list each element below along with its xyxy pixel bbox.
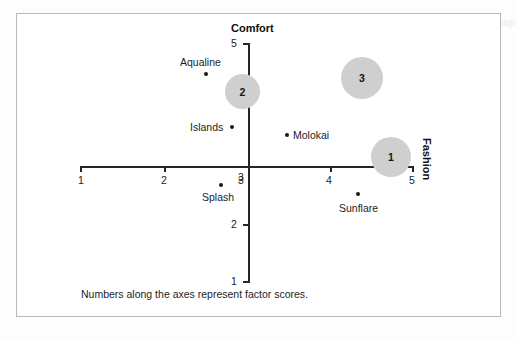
fashion-tick-5-label: 5 xyxy=(409,175,415,186)
fashion-tick-5-mark xyxy=(412,166,414,172)
figure-caption: Numbers along the axes represent factor … xyxy=(81,289,308,300)
comfort-tick-5-mark xyxy=(243,43,249,45)
segment-bubble-1: 1 xyxy=(371,137,411,177)
fashion-axis-line xyxy=(80,166,413,168)
brand-label-molokai: Molokai xyxy=(293,130,329,141)
figure-container: FIGURE 3.5 Brand Perceptual Map Comfort … xyxy=(0,0,517,340)
brand-label-sunflare: Sunflare xyxy=(339,203,378,214)
brand-point-splash xyxy=(219,183,223,187)
brand-point-aqualine xyxy=(204,72,208,76)
brand-label-islands: Islands xyxy=(190,122,223,133)
fashion-tick-2-label: 2 xyxy=(161,175,167,186)
fashion-tick-4-label: 4 xyxy=(326,175,332,186)
brand-label-splash: Splash xyxy=(202,192,234,203)
brand-label-aqualine: Aqualine xyxy=(180,57,221,68)
fashion-tick-2-mark xyxy=(164,166,166,172)
comfort-axis-title: Comfort xyxy=(231,23,274,34)
fashion-tick-4-mark xyxy=(330,166,332,172)
segment-bubble-3: 3 xyxy=(341,57,383,99)
fashion-tick-3-label: 3 xyxy=(238,175,244,186)
fashion-tick-1-mark xyxy=(80,166,82,172)
comfort-tick-1-mark xyxy=(243,281,249,283)
comfort-tick-2-label: 2 xyxy=(231,219,237,230)
segment-bubble-2: 2 xyxy=(225,74,260,109)
comfort-tick-5-label: 5 xyxy=(231,38,237,49)
segment-bubble-1-label: 1 xyxy=(388,151,394,163)
segment-bubble-3-label: 3 xyxy=(359,72,365,84)
comfort-tick-2-mark xyxy=(243,224,249,226)
segment-bubble-2-label: 2 xyxy=(240,86,246,98)
brand-point-molokai xyxy=(285,133,289,137)
perceptual-map-plot: Comfort Fashion 5 3 2 1 1 2 3 4 5 1 2 3 xyxy=(0,0,517,340)
brand-point-islands xyxy=(230,125,234,129)
fashion-axis-title: Fashion xyxy=(421,138,432,180)
brand-point-sunflare xyxy=(356,192,360,196)
fashion-tick-1-label: 1 xyxy=(78,175,84,186)
comfort-tick-1-label: 1 xyxy=(231,276,237,287)
